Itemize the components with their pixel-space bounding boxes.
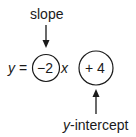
slope-label: slope	[30, 6, 63, 22]
slope-arrow-icon	[43, 25, 50, 48]
equation-equals: =	[19, 60, 27, 76]
intercept-label-var: y	[63, 117, 70, 133]
intercept-label-rest: -intercept	[70, 117, 128, 133]
equation-x-var: x	[61, 60, 68, 76]
intercept-arrow-icon	[93, 89, 100, 114]
slope-value: −2	[37, 60, 53, 76]
intercept-value: + 4	[85, 60, 105, 76]
equation-lhs-var: y	[8, 60, 15, 76]
intercept-label: y-intercept	[63, 117, 128, 133]
